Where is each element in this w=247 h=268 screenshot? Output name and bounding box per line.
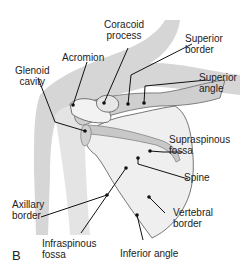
label-line: Inferior angle — [120, 248, 178, 259]
label-vertebral-border: Vertebral border — [173, 207, 213, 229]
label-axillary-border: Axillary border — [12, 199, 44, 221]
label-line: angle — [199, 83, 237, 94]
label-spine: Spine — [184, 172, 210, 183]
label-line: fossa — [169, 145, 230, 156]
coracoid-shape — [96, 95, 118, 112]
label-line: Supraspinous — [169, 134, 230, 145]
label-line: process — [104, 30, 144, 41]
label-line: border — [173, 218, 213, 229]
label-line: fossa — [42, 249, 96, 260]
label-line: Superior — [185, 33, 223, 44]
label-line: Infraspinous — [42, 238, 96, 249]
label-line: Superior — [199, 72, 237, 83]
label-glenoid-cavity: Glenoid cavity — [15, 65, 49, 87]
label-line: Glenoid — [15, 65, 49, 76]
label-supraspinous-fossa: Supraspinous fossa — [169, 134, 230, 156]
label-line: Vertebral — [173, 207, 213, 218]
label-line: border — [185, 44, 223, 55]
label-acromion: Acromion — [62, 52, 104, 63]
label-line: Axillary — [12, 199, 44, 210]
label-line: border — [12, 210, 44, 221]
label-line: cavity — [15, 76, 49, 87]
label-superior-border: Superior border — [185, 33, 223, 55]
label-line: Coracoid — [104, 19, 144, 30]
label-superior-angle: Superior angle — [199, 72, 237, 94]
label-line: Spine — [184, 172, 210, 183]
label-line: Acromion — [62, 52, 104, 63]
label-infraspinous-fossa: Infraspinous fossa — [42, 238, 96, 260]
label-coracoid-process: Coracoid process — [104, 19, 144, 41]
panel-letter: B — [12, 248, 21, 263]
label-inferior-angle: Inferior angle — [120, 248, 178, 259]
